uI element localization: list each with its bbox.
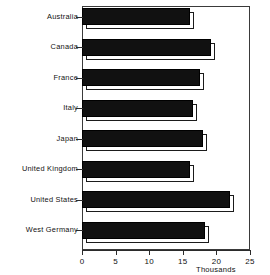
- bar-united-states: [82, 191, 234, 212]
- category-tick: [76, 47, 83, 48]
- category-label: Australia: [0, 12, 78, 21]
- x-tick-label: 0: [70, 257, 94, 266]
- category-tick: [76, 169, 83, 170]
- x-tick: [116, 250, 117, 255]
- x-tick: [216, 250, 217, 255]
- x-tick: [250, 250, 251, 255]
- bar-front-face: [82, 191, 230, 208]
- category-label: France: [0, 73, 78, 82]
- bar-front-face: [82, 130, 203, 147]
- x-tick: [82, 250, 83, 255]
- bar-united-kingdom: [82, 161, 194, 182]
- bar-canada: [82, 39, 215, 60]
- x-axis-line: [82, 250, 250, 251]
- x-tick-label: 15: [171, 257, 195, 266]
- category-tick: [76, 78, 83, 79]
- bar-front-face: [82, 161, 190, 178]
- bar-west-germany: [82, 222, 209, 243]
- bar-front-face: [82, 69, 200, 86]
- bar-france: [82, 69, 204, 90]
- x-tick: [149, 250, 150, 255]
- category-label: Canada: [0, 42, 78, 51]
- bar-australia: [82, 8, 194, 29]
- bar-front-face: [82, 39, 211, 56]
- category-tick: [76, 139, 83, 140]
- category-label: Italy: [0, 103, 78, 112]
- category-label: United States: [0, 195, 78, 204]
- x-tick-label: 25: [238, 257, 262, 266]
- bar-italy: [82, 100, 197, 121]
- bar-front-face: [82, 222, 205, 239]
- x-tick-label: 10: [137, 257, 161, 266]
- category-tick: [76, 108, 83, 109]
- x-tick-label: 5: [104, 257, 128, 266]
- category-label: Japan: [0, 134, 78, 143]
- axis-unit-label: Thousands: [196, 265, 236, 274]
- category-label: United Kingdom: [0, 164, 78, 173]
- bar-chart: AustraliaCanadaFranceItalyJapanUnited Ki…: [0, 0, 270, 275]
- category-tick: [76, 17, 83, 18]
- bar-front-face: [82, 100, 193, 117]
- x-tick: [183, 250, 184, 255]
- category-tick: [76, 200, 83, 201]
- category-tick: [76, 230, 83, 231]
- category-label: West Germany: [0, 225, 78, 234]
- bar-japan: [82, 130, 207, 151]
- bar-front-face: [82, 8, 190, 25]
